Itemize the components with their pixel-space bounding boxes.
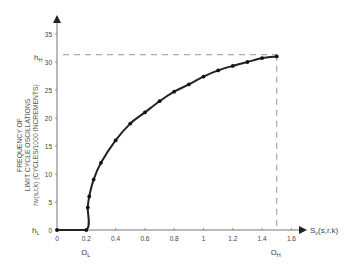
h-high-label: hH <box>34 53 42 63</box>
x-tick-label: 0.2 <box>82 235 91 242</box>
y-axis-label-line: LIMIT CYCLE OSCILLATIONS <box>24 98 31 191</box>
data-point <box>143 111 147 115</box>
y-axis-arrow-icon <box>53 15 61 23</box>
omega-high-label: ΩH <box>271 248 281 258</box>
data-point <box>231 64 235 68</box>
x-axis-label: Sv(s,r,k) <box>310 226 338 236</box>
data-point <box>158 99 162 103</box>
data-point <box>84 228 88 232</box>
data-point <box>260 56 264 60</box>
y-tick-label: 30 <box>45 59 53 66</box>
x-tick-label: 1.4 <box>258 235 267 242</box>
x-tick-label: 0 <box>55 235 59 242</box>
data-point <box>114 139 118 143</box>
y-axis-label-line: FREQUENCY OF <box>16 118 24 172</box>
h-low-label: hL <box>32 226 40 236</box>
data-point <box>246 60 250 64</box>
data-point <box>92 178 96 182</box>
y-tick-label: 15 <box>45 143 53 150</box>
data-point <box>275 55 279 59</box>
axes: 00.20.40.60.811.21.41.605101520253035 <box>45 15 307 242</box>
data-point <box>55 228 59 232</box>
x-tick-label: 1.2 <box>228 235 237 242</box>
axis-labels: hHhLΩLΩHSv(s,r,k)FREQUENCY OFLIMIT CYCLE… <box>16 53 338 258</box>
omega-low-label: ΩL <box>81 248 90 258</box>
y-axis-label-line: hv(s,r,k) (CYCLES/1000 INCREMENTS) <box>32 84 40 206</box>
x-axis-arrow-icon <box>299 226 307 234</box>
data-point <box>172 90 176 94</box>
y-tick-label: 10 <box>45 171 53 178</box>
data-point <box>99 161 103 165</box>
x-tick-label: 0.4 <box>111 235 120 242</box>
x-tick-label: 1.6 <box>287 235 296 242</box>
x-tick-label: 0.6 <box>140 235 149 242</box>
data-point <box>87 195 91 199</box>
x-tick-label: 0.8 <box>170 235 179 242</box>
data-point <box>128 122 132 126</box>
data-point <box>86 206 90 210</box>
y-tick-label: 20 <box>45 115 53 122</box>
y-tick-label: 35 <box>45 31 53 38</box>
data-series <box>55 55 279 232</box>
frequency-curve <box>57 56 277 230</box>
data-point <box>187 83 191 87</box>
data-point <box>202 75 206 79</box>
frequency-chart: 00.20.40.60.811.21.41.605101520253035 hH… <box>0 0 349 266</box>
x-tick-label: 1 <box>202 235 206 242</box>
y-axis-label: FREQUENCY OFLIMIT CYCLE OSCILLATIONShv(s… <box>16 84 40 206</box>
guide-lines <box>63 55 277 230</box>
y-tick-label: 25 <box>45 87 53 94</box>
data-point <box>216 69 220 73</box>
y-tick-label: 5 <box>48 199 52 206</box>
y-tick-label: 0 <box>48 227 52 234</box>
